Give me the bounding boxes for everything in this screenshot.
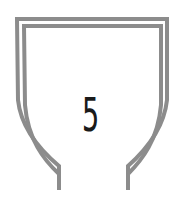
shield-numeral: 5: [35, 92, 147, 138]
shield-emblem: 5: [0, 0, 181, 207]
